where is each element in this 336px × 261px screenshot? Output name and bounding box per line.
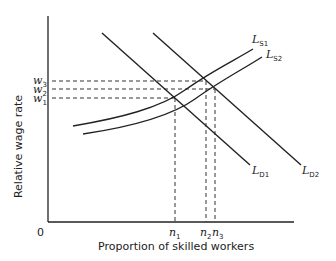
label-ld1: LD1: [252, 164, 269, 179]
tick-w1: w1: [33, 92, 47, 107]
label-ld2: LD2: [302, 164, 319, 179]
origin-label: 0: [37, 226, 44, 239]
tick-n3: n3: [212, 226, 224, 241]
tick-n1: n1: [169, 226, 181, 241]
diagram-canvas: [0, 0, 336, 261]
label-ls2: LS2: [266, 48, 282, 63]
label-ls1: LS1: [252, 33, 268, 48]
tick-n2: n2: [200, 226, 212, 241]
y-axis-label: Relative wage rate: [12, 95, 25, 198]
labour-market-diagram: Relative wage rate Proportion of skilled…: [0, 0, 336, 261]
x-axis-label: Proportion of skilled workers: [98, 240, 254, 253]
